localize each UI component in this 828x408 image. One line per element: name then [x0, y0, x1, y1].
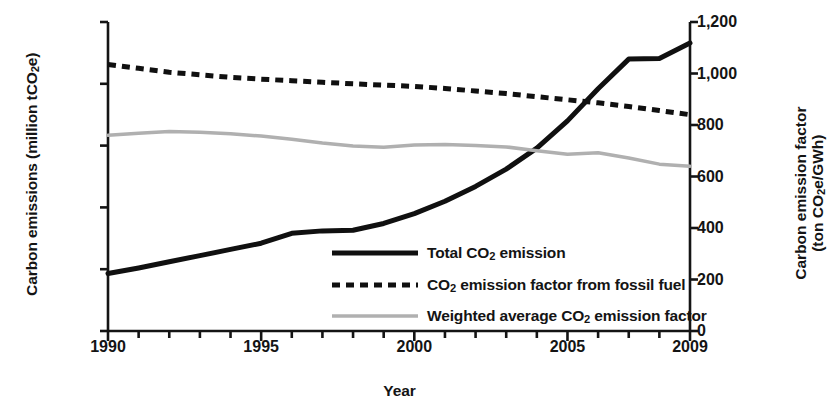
legend-item-label-0: Total CO2 emission	[427, 244, 565, 262]
y-axis-right-tick-label: 800	[697, 116, 724, 134]
x-axis-tick-label: 1995	[243, 338, 279, 356]
legend-label-prefix: CO	[427, 276, 450, 293]
series-line-1	[108, 64, 690, 114]
legend-label-suffix: emission	[495, 244, 565, 261]
y-axis-right-tick-label: 400	[697, 219, 724, 237]
y-axis-right-tick-label: 200	[697, 271, 724, 289]
x-axis-tick-label: 2005	[550, 338, 586, 356]
legend-label-suffix: emission factor from fossil fuel	[456, 276, 685, 293]
x-axis-tick-label: 1990	[90, 338, 126, 356]
legend-label-prefix: Weighted average CO	[427, 307, 584, 324]
series-group	[108, 43, 690, 274]
legend-item-label-1: CO2 emission factor from fossil fuel	[427, 276, 685, 294]
legend-swatches	[332, 253, 418, 316]
y-axis-right-tick-label: 1,200	[697, 13, 737, 31]
y-axis-right-title-line2-subscript: 2	[816, 189, 828, 195]
x-axis-title: Year	[0, 382, 799, 400]
y-axis-right-tick-label: 1,000	[697, 65, 737, 83]
y-axis-right-title-line2-prefix: (ton CO	[809, 195, 826, 252]
y-axis-right-title-line2-suffix: e/GWh)	[809, 135, 826, 189]
legend-item-label-2: Weighted average CO2 emission factor	[427, 307, 707, 325]
series-line-2	[108, 131, 690, 166]
legend-label-suffix: emission factor	[590, 307, 706, 324]
y-axis-right-tick-label: 600	[697, 168, 724, 186]
series-line-0	[108, 43, 690, 274]
legend-label-prefix: Total CO	[427, 244, 489, 261]
y-axis-left-tick-labels: 05001,0001,5002,0002,500	[0, 0, 100, 408]
y-axis-right-title-line2: (ton CO2e/GWh)	[809, 43, 828, 343]
x-axis-tick-label: 2000	[397, 338, 433, 356]
x-axis-tick-label: 2009	[672, 338, 708, 356]
